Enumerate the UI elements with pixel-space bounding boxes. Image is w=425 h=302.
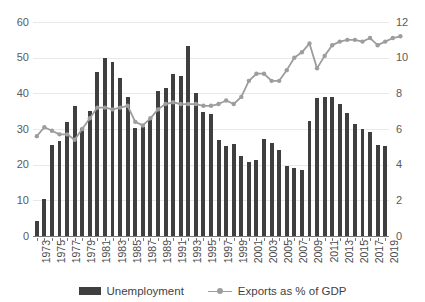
line-marker	[360, 39, 364, 43]
x-axis-tick-mark	[378, 238, 379, 241]
x-axis-tick-label: 2001	[253, 240, 264, 263]
x-axis-tick-mark	[234, 238, 235, 241]
x-axis-tick-label: 1995	[207, 240, 218, 263]
line-marker	[125, 104, 129, 108]
y-axis-right-tick-label: 12	[396, 17, 408, 28]
x-axis-tick-mark	[113, 238, 114, 241]
line-marker	[35, 134, 39, 138]
x-axis-tick-label: 1989	[162, 240, 173, 263]
legend-item-exports: Exports as % of GDP	[208, 285, 347, 297]
x-axis-tick-mark	[120, 238, 121, 241]
x-axis-tick-label: 2009	[313, 240, 324, 263]
line-marker	[57, 132, 61, 136]
line-marker	[209, 104, 213, 108]
x-axis-tick-mark	[347, 238, 348, 241]
line-marker	[110, 107, 114, 111]
line-marker	[383, 39, 387, 43]
line-marker	[72, 138, 76, 142]
line-marker	[88, 116, 92, 120]
x-axis-tick-mark	[196, 238, 197, 241]
line-marker	[232, 102, 236, 106]
x-axis-tick-label: 2011	[329, 240, 340, 263]
x-axis-tick-label: 1985	[132, 240, 143, 263]
y-axis-right-tick-label: 8	[396, 88, 402, 99]
x-axis-tick-label: 2003	[268, 240, 279, 263]
line-marker	[391, 36, 395, 40]
x-axis-tick-mark	[317, 238, 318, 241]
x-axis-tick-mark	[256, 238, 257, 241]
line-marker	[398, 34, 402, 38]
x-axis-tick-mark	[355, 238, 356, 241]
line-marker	[330, 43, 334, 47]
y-axis-right-tick-label: 4	[396, 159, 402, 170]
y-axis-left-tick-label: 20	[17, 159, 29, 170]
y-axis-right-tick-label: 6	[396, 124, 402, 135]
x-axis-tick-label: 1993	[192, 240, 203, 263]
x-axis-tick-label: 2007	[298, 240, 309, 263]
x-axis-tick-mark	[272, 238, 273, 241]
x-axis-tick-mark	[105, 238, 106, 241]
x-axis-tick-mark	[287, 238, 288, 241]
x-axis-tick-label: 1999	[238, 240, 249, 263]
x-axis-tick-label: 2005	[283, 240, 294, 263]
line-marker	[315, 66, 319, 70]
x-axis-tick-mark	[173, 238, 174, 241]
y-axis-right-tick-label: 0	[396, 231, 402, 242]
line-marker	[156, 107, 160, 111]
line-marker	[277, 79, 281, 83]
x-axis-tick-mark	[309, 238, 310, 241]
x-axis-tick-mark	[82, 238, 83, 241]
x-axis-tick-label: 1997	[223, 240, 234, 263]
y-axis-left-tick-label: 60	[17, 17, 29, 28]
x-axis-line	[33, 236, 389, 237]
y-axis-left-tick-label: 0	[23, 231, 29, 242]
line-marker	[186, 102, 190, 106]
line-marker	[292, 55, 296, 59]
line-marker-swatch-icon	[208, 287, 232, 296]
line-marker	[375, 43, 379, 47]
line-series-exports	[33, 22, 389, 236]
line-marker	[269, 79, 273, 83]
x-axis-tick-mark	[362, 238, 363, 241]
x-axis-tick-label: 2013	[344, 240, 355, 263]
x-axis-tick-label: 1979	[86, 240, 97, 263]
x-axis-tick-label: 1975	[56, 240, 67, 263]
x-axis-tick-mark	[44, 238, 45, 241]
line-marker	[201, 104, 205, 108]
x-axis-tick-mark	[97, 238, 98, 241]
x-axis-tick-mark	[385, 238, 386, 241]
x-axis-tick-mark	[158, 238, 159, 241]
line-marker	[322, 54, 326, 58]
x-axis-tick-label: 2017	[374, 240, 385, 263]
x-axis-tick-mark	[90, 238, 91, 241]
y-axis-left-tick-label: 40	[17, 88, 29, 99]
legend-label-exports: Exports as % of GDP	[238, 285, 347, 297]
x-axis-tick-mark	[75, 238, 76, 241]
x-axis-tick-mark	[370, 238, 371, 241]
line-marker	[65, 132, 69, 136]
x-axis-tick-mark	[332, 238, 333, 241]
x-axis-tick-label: 1973	[41, 240, 52, 263]
x-axis-tick-mark	[143, 238, 144, 241]
x-axis-tick-mark	[325, 238, 326, 241]
line-marker	[148, 116, 152, 120]
x-axis-tick-mark	[279, 238, 280, 241]
line-marker	[171, 100, 175, 104]
legend-label-unemployment: Unemployment	[107, 285, 184, 297]
x-axis-tick-mark	[302, 238, 303, 241]
x-axis-tick-mark	[219, 238, 220, 241]
x-axis-tick-label: 2019	[389, 240, 400, 263]
x-axis-tick-mark	[188, 238, 189, 241]
line-marker	[285, 68, 289, 72]
x-axis-tick-mark	[264, 238, 265, 241]
line-path	[37, 36, 401, 139]
line-marker	[163, 102, 167, 106]
x-axis-tick-mark	[211, 238, 212, 241]
line-marker	[118, 105, 122, 109]
x-axis-tick-mark	[226, 238, 227, 241]
line-marker	[194, 102, 198, 106]
chart-legend: Unemployment Exports as % of GDP	[0, 281, 425, 301]
x-axis-tick-mark	[67, 238, 68, 241]
x-axis-tick-mark	[52, 238, 53, 241]
y-axis-right-tick-label: 10	[396, 52, 408, 63]
